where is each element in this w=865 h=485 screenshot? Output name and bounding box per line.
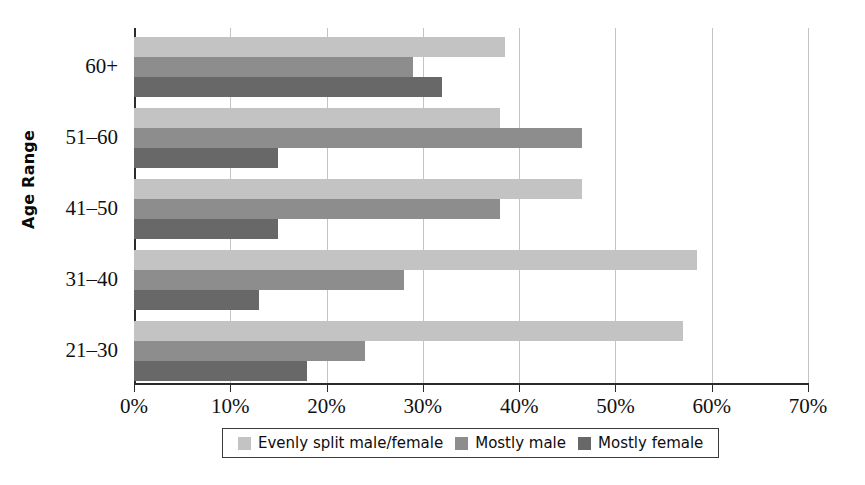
x-axis-tick-label: 10% <box>190 394 270 419</box>
legend-item-1[interactable]: Mostly male <box>449 434 572 452</box>
legend-item-label: Mostly male <box>475 434 566 452</box>
x-axis-tick-label: 20% <box>287 394 367 419</box>
bar-2130-series-1 <box>134 341 365 361</box>
bar-4150-series-1 <box>134 199 500 219</box>
bar-5160-series-1 <box>134 128 582 148</box>
legend-swatch-icon <box>455 437 468 450</box>
bar-5160-series-2 <box>134 148 278 168</box>
bar-60+-series-1 <box>134 57 413 77</box>
y-axis-tick-label: 60+ <box>0 54 118 79</box>
y-axis-tick-label: 41–50 <box>0 196 118 221</box>
y-axis-tick-label: 51–60 <box>0 125 118 150</box>
x-axis-tick <box>808 383 809 392</box>
x-axis-tick <box>230 383 231 392</box>
bar-chart: Age Range 0%10%20%30%40%50%60%70%21–3031… <box>0 0 865 485</box>
bar-5160-series-0 <box>134 108 500 128</box>
y-axis-title: Age Range <box>19 90 38 270</box>
bar-3140-series-1 <box>134 270 404 290</box>
legend-swatch-icon <box>238 437 251 450</box>
legend-swatch-icon <box>578 437 591 450</box>
x-axis-tick <box>615 383 616 392</box>
bar-60+-series-0 <box>134 37 505 57</box>
x-axis-tick-label: 30% <box>383 394 463 419</box>
legend-item-label: Mostly female <box>598 434 703 452</box>
category-group: 51–60 <box>134 99 808 170</box>
x-axis-tick-label: 40% <box>479 394 559 419</box>
x-axis-tick-label: 60% <box>672 394 752 419</box>
x-gridline <box>808 28 809 383</box>
x-axis-tick <box>327 383 328 392</box>
y-axis-tick-label: 31–40 <box>0 267 118 292</box>
bar-2130-series-0 <box>134 321 683 341</box>
bar-4150-series-2 <box>134 219 278 239</box>
plot-area: 0%10%20%30%40%50%60%70%21–3031–4041–5051… <box>134 28 808 383</box>
x-axis-tick <box>423 383 424 392</box>
x-axis-tick-label: 0% <box>94 394 174 419</box>
bar-4150-series-0 <box>134 179 582 199</box>
x-axis-tick <box>519 383 520 392</box>
legend-item-2[interactable]: Mostly female <box>572 434 709 452</box>
category-group: 31–40 <box>134 241 808 312</box>
x-axis-tick <box>712 383 713 392</box>
x-axis-tick-label: 70% <box>768 394 848 419</box>
category-group: 41–50 <box>134 170 808 241</box>
x-axis-tick-label: 50% <box>575 394 655 419</box>
bar-3140-series-0 <box>134 250 697 270</box>
chart-legend: Evenly split male/femaleMostly maleMostl… <box>222 428 719 458</box>
category-group: 21–30 <box>134 312 808 383</box>
bar-3140-series-2 <box>134 290 259 310</box>
category-group: 60+ <box>134 28 808 99</box>
y-axis-tick-label: 21–30 <box>0 338 118 363</box>
bar-2130-series-2 <box>134 361 307 381</box>
x-axis-line <box>134 383 808 385</box>
legend-item-label: Evenly split male/female <box>258 434 443 452</box>
bar-60+-series-2 <box>134 77 442 97</box>
legend-item-0[interactable]: Evenly split male/female <box>232 434 449 452</box>
x-axis-tick <box>134 383 135 392</box>
